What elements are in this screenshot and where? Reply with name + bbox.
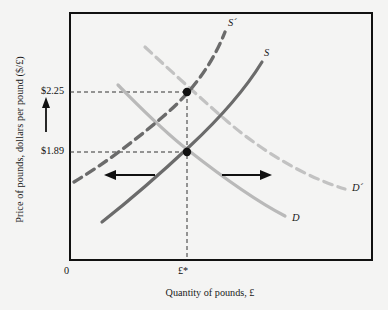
- equilibrium-point-initial: [183, 148, 191, 156]
- equilibrium-point-new: [183, 88, 191, 96]
- chart-figure: Price of pounds, dollars per pound ($/£)…: [0, 0, 388, 310]
- y-axis-title: Price of pounds, dollars per pound ($/£): [14, 35, 25, 245]
- curve-label-supply-shifted: S´: [228, 17, 237, 28]
- y-tick-label-189: $1.89: [18, 145, 64, 156]
- supply-shift-left-arrow-icon: [104, 170, 155, 180]
- x-axis-title: Quantity of pounds, £: [110, 287, 310, 298]
- curve-demand-shifted: [145, 47, 345, 189]
- x-tick-label-origin: 0: [64, 265, 69, 276]
- x-tick-label-qstar: £*: [178, 265, 188, 276]
- curve-label-supply: S: [264, 47, 269, 58]
- plot-frame: [70, 13, 372, 260]
- price-rise-arrow-icon: [42, 97, 50, 132]
- curve-demand: [118, 85, 285, 216]
- curve-label-demand: D: [292, 212, 300, 223]
- y-tick-label-225: $2.25: [18, 85, 64, 96]
- curve-supply: [102, 62, 262, 222]
- curve-label-demand-shifted: D´: [352, 182, 363, 193]
- demand-shift-right-arrow-icon: [222, 170, 272, 180]
